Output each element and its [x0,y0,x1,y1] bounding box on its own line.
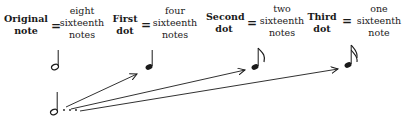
dot-1 [63,109,65,111]
quarter-note-icon [145,50,154,71]
arrow-to-sixteenth-note [80,69,338,111]
sixteenth-note-icon [344,45,358,69]
arrow-to-eighth-note [71,70,245,109]
dot-2 [69,109,71,111]
half-note-icon [51,50,60,71]
notes-and-arrows [0,0,411,125]
dot-3 [75,109,77,111]
eighth-note-icon [251,48,265,71]
